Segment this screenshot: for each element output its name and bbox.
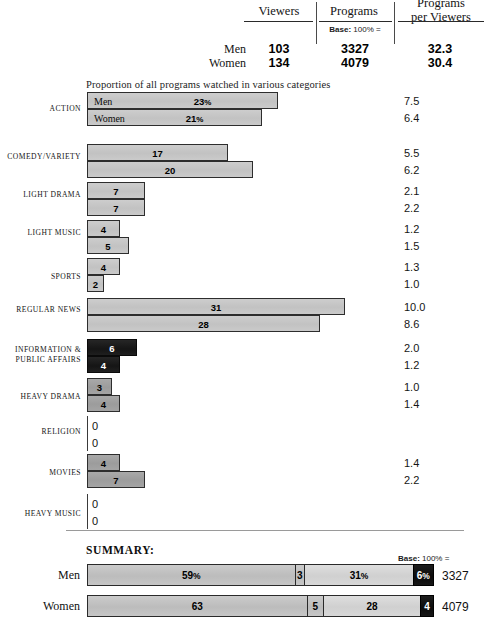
bar-men: 4 [87, 454, 120, 471]
summary-base-note: Base: 100% = [398, 554, 449, 563]
bar-women: 20 [87, 161, 253, 178]
ratio-value-men: 1.0 [404, 381, 438, 393]
column-header-viewers: Viewers [248, 4, 310, 18]
ratio-value-women: 2.2 [404, 474, 438, 486]
bar-women: Women21% [87, 109, 262, 126]
summary-segment: 5 [307, 595, 325, 617]
zero-axis-tick [87, 511, 88, 529]
ratio-value-men: 7.5 [404, 95, 438, 107]
summary-stacked-bar: 59%331%6% [87, 564, 437, 586]
summary-segment-value: 3 [297, 570, 303, 581]
category-label: HEAVY MUSIC [0, 509, 81, 519]
ratio-value-women: 8.6 [404, 318, 438, 330]
header-table: Viewers Programs Programs per Viewers Ba… [0, 0, 488, 74]
bar-men: 6 [87, 339, 137, 356]
category-label: RELIGION [0, 427, 81, 437]
header-rule-viewers [244, 21, 313, 22]
bar-value: 31 [88, 301, 344, 312]
bar-value: 4 [88, 457, 119, 468]
ratio-value-men: 10.0 [404, 301, 438, 313]
zero-axis-tick [87, 433, 88, 451]
summary-section: SUMMARY: Base: 100% = Men59%331%6%3327Wo… [0, 540, 488, 633]
bar-women: 28 [87, 315, 320, 332]
column-header-ppv-line1: Programs [398, 0, 484, 10]
category-label: INFORMATION &PUBLIC AFFAIRS [0, 345, 81, 364]
ratio-value-men: 1.2 [404, 223, 438, 235]
ratio-value-women: 1.2 [404, 359, 438, 371]
summary-segment: 4 [420, 595, 434, 617]
category-label: COMEDY/VARIETY [0, 152, 81, 162]
summary-segment: 31% [304, 564, 414, 586]
bar-value: 28 [88, 318, 319, 329]
category-label: LIGHT DRAMA [0, 190, 81, 200]
summary-segment-value: 4 [424, 601, 430, 612]
ratio-value-men: 2.1 [404, 185, 438, 197]
bar-value: 23% [88, 95, 277, 106]
header-base-value: 100% = [351, 25, 381, 34]
bar-women: 7 [87, 199, 145, 216]
bar-women: 4 [87, 395, 120, 412]
header-cell-men-ppv: 32.3 [398, 42, 482, 56]
bar-value: 4 [88, 223, 119, 234]
bar-men: 3 [87, 378, 112, 395]
bar-value: 7 [88, 202, 144, 213]
bar-value: 2 [88, 278, 103, 289]
summary-segment: 6% [413, 564, 434, 586]
category-label: HEAVY DRAMA [0, 392, 81, 402]
bar-value: 4 [88, 398, 119, 409]
category-label-line2: PUBLIC AFFAIRS [0, 355, 81, 365]
bar-value: 0 [92, 515, 98, 527]
category-label: MOVIES [0, 468, 81, 478]
bar-value: 0 [92, 420, 98, 432]
bar-value: 0 [92, 437, 98, 449]
ratio-value-women: 1.4 [404, 398, 438, 410]
header-cell-men-viewers: 103 [249, 42, 309, 56]
header-cell-women-viewers: 134 [249, 56, 309, 70]
bar-men: Men23% [87, 92, 278, 109]
bar-value: 6 [88, 342, 136, 353]
bar-value: 7 [88, 185, 144, 196]
ratio-value-women: 6.2 [404, 164, 438, 176]
bar-men: 4 [87, 258, 120, 275]
bar-women: 4 [87, 356, 120, 373]
category-label: REGULAR NEWS [0, 305, 81, 315]
summary-title: SUMMARY: [86, 544, 155, 556]
bar-value: 0 [92, 498, 98, 510]
tv-viewing-chart-page: { "header": { "columns": ["Viewers", "Pr… [0, 0, 488, 633]
header-cell-women-programs: 4079 [319, 56, 391, 70]
bar-value: 20 [88, 164, 252, 175]
summary-base-value: 100% = [420, 554, 450, 563]
category-label: SPORTS [0, 272, 81, 282]
ratio-value-women: 1.5 [404, 240, 438, 252]
summary-row-label: Men [18, 568, 80, 583]
summary-segment-value: 5 [312, 601, 318, 612]
summary-segment-value: 31% [350, 570, 369, 581]
summary-segment: 28 [323, 595, 421, 617]
ratio-value-men: 5.5 [404, 147, 438, 159]
summary-segment: 63 [87, 595, 308, 617]
header-rule-ppv [398, 21, 484, 22]
ratio-value-women: 1.0 [404, 278, 438, 290]
bar-men: 4 [87, 220, 120, 237]
bar-women: 7 [87, 471, 145, 488]
bar-value: 5 [88, 240, 128, 251]
header-vertical-divider-2 [394, 2, 395, 44]
zero-axis-tick [87, 494, 88, 512]
summary-base-label: Base: [398, 554, 420, 563]
ratio-value-men: 1.3 [404, 261, 438, 273]
category-bar-chart: ACTIONMen23%7.5Women21%6.4COMEDY/VARIETY… [0, 92, 488, 516]
chart-caption: Proportion of all programs watched in va… [86, 79, 330, 90]
bar-men: 17 [87, 144, 228, 161]
column-header-programs: Programs [318, 4, 390, 18]
summary-stacked-bar: 635284 [87, 595, 437, 617]
header-cell-men-programs: 3327 [319, 42, 391, 56]
zero-axis-tick [87, 416, 88, 434]
category-label: LIGHT MUSIC [0, 228, 81, 238]
category-label: ACTION [0, 104, 81, 114]
summary-segment-value: 63 [192, 601, 203, 612]
summary-segment-value: 6% [417, 570, 430, 581]
ratio-value-men: 2.0 [404, 342, 438, 354]
bar-women: 2 [87, 275, 104, 292]
ratio-value-women: 2.2 [404, 202, 438, 214]
header-rule-programs [319, 21, 392, 22]
